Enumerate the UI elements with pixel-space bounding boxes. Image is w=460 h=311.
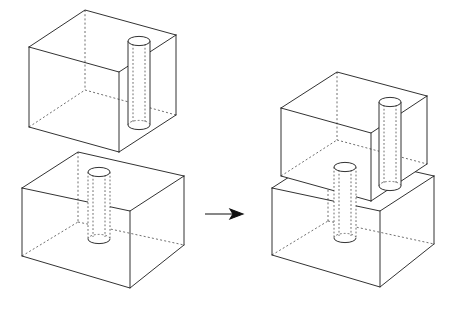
left-exploded-view (22, 10, 184, 288)
cyl-lower-right-body-fill (334, 167, 356, 243)
right-assembled-view (272, 72, 434, 287)
cyl-lower-left-body-fill (88, 172, 110, 244)
cyl-lower-left (88, 167, 110, 243)
transformation-arrow (205, 209, 243, 219)
upper-box-left (29, 10, 176, 152)
cyl-upper-right-body-fill (379, 102, 401, 191)
technical-drawing-canvas (0, 0, 460, 311)
figure-root (0, 0, 460, 311)
cyl-lower-right (334, 162, 356, 242)
cyl-upper-right (379, 97, 401, 190)
cyl-upper-left (128, 36, 150, 129)
lower-box-left (22, 152, 184, 288)
cyl-upper-left-body-fill (128, 41, 150, 130)
